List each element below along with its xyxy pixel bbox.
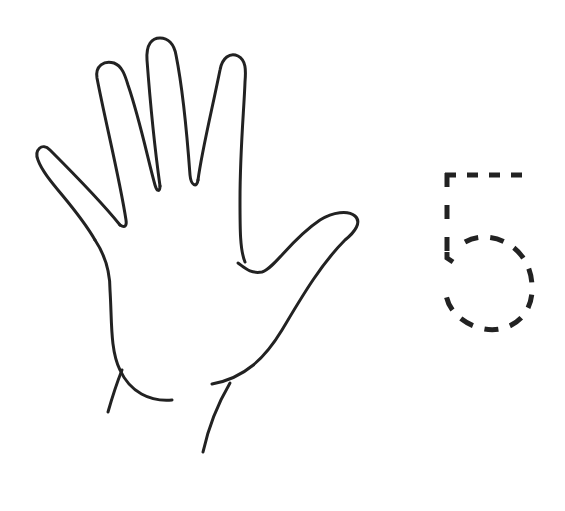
worksheet-canvas (0, 0, 565, 511)
dashed-digit-five-icon (445, 173, 532, 330)
hand-outline-icon (37, 38, 358, 452)
